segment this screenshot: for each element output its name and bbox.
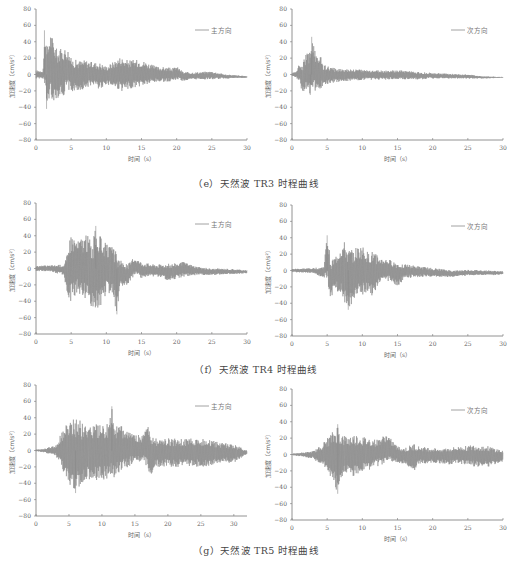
y-tick-label: 80: [279, 5, 287, 12]
x-axis: 051015202530: [290, 138, 507, 151]
chart-tr3-main: 806040200−20−40−60−80051015202530时间（s）加速…: [0, 0, 256, 168]
x-tick-label: 0: [34, 338, 38, 345]
y-axis-label: 加速度（cm/s²）: [264, 431, 272, 478]
y-tick-label: −80: [274, 516, 287, 523]
x-tick-label: 20: [429, 524, 437, 531]
chart-tr4-main: 806040200−20−40−60−80051015202530时间（s）加速…: [0, 194, 256, 362]
y-tick-label: −60: [274, 120, 287, 127]
x-tick-label: 30: [499, 340, 507, 347]
x-tick-label: 10: [103, 338, 111, 345]
x-tick-label: 20: [173, 338, 181, 345]
y-tick-label: −20: [274, 467, 287, 474]
x-tick-label: 15: [394, 340, 402, 347]
x-tick-label: 15: [138, 144, 146, 151]
y-tick-label: 0: [27, 71, 31, 78]
x-axis-label: 时间（s）: [128, 531, 155, 539]
y-tick-label: −20: [18, 87, 31, 94]
y-axis-label: 加速度（cm/s²）: [264, 51, 272, 98]
x-tick-label: 5: [325, 144, 329, 151]
y-tick-label: −40: [18, 479, 31, 486]
y-tick-label: 20: [23, 248, 31, 255]
x-tick-label: 10: [359, 524, 367, 531]
y-tick-label: 20: [279, 250, 287, 257]
x-tick-label: 0: [34, 520, 38, 527]
y-tick-label: −80: [18, 512, 31, 519]
svg-text:次方向: 次方向: [467, 222, 488, 231]
y-tick-label: 0: [283, 267, 287, 274]
chart-tr5-secondary: 806040200−20−40−60−80051015202530时间（s）加速…: [256, 380, 512, 548]
x-tick-label: 25: [464, 144, 472, 151]
x-tick-label: 10: [98, 520, 106, 527]
x-tick-label: 30: [499, 524, 507, 531]
waveform-line: [292, 242, 503, 306]
x-axis-label: 时间（s）: [384, 535, 411, 543]
y-tick-label: −60: [18, 120, 31, 127]
y-tick-label: 0: [27, 447, 31, 454]
legend: 主方向: [195, 402, 232, 411]
y-tick-label: 60: [279, 21, 287, 28]
y-tick-label: −60: [18, 314, 31, 321]
waveform-line: [36, 409, 247, 488]
waveform-line: [292, 428, 503, 490]
x-tick-label: 0: [290, 340, 294, 347]
x-axis: 051015202530: [290, 334, 507, 347]
y-tick-label: 0: [27, 265, 31, 272]
waveform-line: [36, 231, 247, 311]
y-tick-label: 20: [279, 54, 287, 61]
x-tick-label: 15: [131, 520, 139, 527]
legend: 次方向: [451, 26, 488, 35]
y-axis: 806040200−20−40−60−80: [274, 5, 292, 143]
y-axis: 806040200−20−40−60−80: [274, 385, 292, 523]
y-tick-label: −40: [274, 483, 287, 490]
y-tick-label: 80: [23, 5, 31, 12]
y-tick-label: −20: [18, 281, 31, 288]
x-tick-label: 5: [67, 520, 71, 527]
caption-g: （g）天然波 TR5 时程曲线: [0, 543, 512, 557]
y-tick-label: −80: [274, 332, 287, 339]
y-tick-label: −20: [274, 283, 287, 290]
x-tick-label: 30: [499, 144, 507, 151]
chart-tr4-secondary: 806040200−20−40−60−80051015202530时间（s）加速…: [256, 196, 512, 364]
y-tick-label: 80: [279, 385, 287, 392]
x-tick-label: 5: [325, 340, 329, 347]
caption-f: （f）天然波 TR4 时程曲线: [0, 362, 512, 376]
svg-text:次方向: 次方向: [467, 26, 488, 35]
y-tick-label: −80: [18, 136, 31, 143]
x-axis-label: 时间（s）: [384, 351, 411, 359]
x-axis-label: 时间（s）: [384, 155, 411, 163]
y-tick-label: 40: [23, 38, 31, 45]
x-tick-label: 25: [464, 340, 472, 347]
y-tick-label: 60: [279, 217, 287, 224]
svg-text:次方向: 次方向: [467, 406, 488, 415]
y-axis: 806040200−20−40−60−80: [18, 381, 36, 519]
y-tick-label: 0: [283, 451, 287, 458]
legend: 主方向: [195, 26, 232, 35]
svg-text:主方向: 主方向: [211, 26, 232, 35]
y-tick-label: 60: [279, 401, 287, 408]
x-tick-label: 25: [197, 520, 205, 527]
x-tick-label: 0: [290, 524, 294, 531]
y-axis-label: 加速度（cm/s²）: [264, 247, 272, 294]
x-tick-label: 15: [138, 338, 146, 345]
x-tick-label: 25: [464, 524, 472, 531]
x-axis: 051015202530: [34, 514, 247, 527]
x-tick-label: 10: [103, 144, 111, 151]
x-tick-label: 10: [359, 144, 367, 151]
legend: 主方向: [195, 220, 232, 229]
waveform-line: [36, 38, 247, 101]
y-tick-label: −40: [18, 103, 31, 110]
x-tick-label: 15: [394, 524, 402, 531]
x-tick-label: 0: [34, 144, 38, 151]
x-tick-label: 0: [290, 144, 294, 151]
y-tick-label: −40: [274, 103, 287, 110]
y-tick-label: −40: [18, 297, 31, 304]
x-axis: 051015202530: [34, 332, 251, 345]
y-tick-label: 60: [23, 21, 31, 28]
y-tick-label: 40: [279, 38, 287, 45]
svg-text:主方向: 主方向: [211, 220, 232, 229]
x-tick-label: 20: [164, 520, 172, 527]
y-tick-label: 40: [23, 232, 31, 239]
x-tick-label: 15: [394, 144, 402, 151]
legend: 次方向: [451, 222, 488, 231]
chart-tr5-main: 806040200−20−40−60−80051015202530时间（s）加速…: [0, 376, 256, 544]
